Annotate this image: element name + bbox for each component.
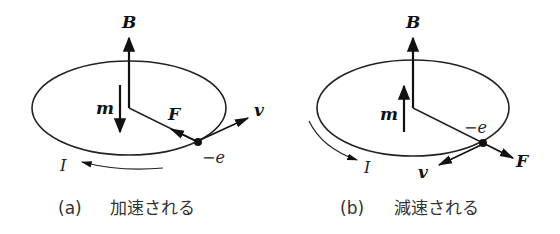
caption-b-label: (b) — [340, 198, 364, 218]
force-label: F — [515, 151, 530, 171]
current-label: I — [59, 156, 67, 175]
velocity-label: v — [418, 162, 429, 182]
b-field-label: B — [405, 12, 420, 32]
velocity-arrow — [200, 118, 248, 140]
force-label: F — [167, 104, 182, 124]
panel-b: B m F v −e I (b) 減速される — [309, 12, 530, 218]
force-arrow — [171, 129, 198, 142]
magnetic-moment-label: m — [96, 98, 114, 118]
current-arrow — [309, 121, 357, 160]
current-label: I — [363, 158, 371, 177]
caption-a-text: 加速される — [110, 198, 195, 218]
magnetic-moment-label: m — [380, 104, 398, 124]
electron-dot — [194, 138, 202, 146]
panel-a: B m F v −e I (a) 加速される — [32, 12, 265, 218]
caption-a-label: (a) — [58, 198, 82, 218]
charge-label: −e — [202, 148, 225, 167]
force-arrow — [483, 143, 513, 158]
velocity-arrow — [439, 145, 481, 165]
velocity-label: v — [254, 100, 265, 120]
figure: B m F v −e I (a) 加速される B m F v −e I (b) … — [0, 0, 560, 234]
b-field-label: B — [121, 12, 136, 32]
caption-b-text: 減速される — [394, 198, 479, 218]
current-arrow — [82, 162, 163, 169]
charge-label: −e — [464, 118, 487, 137]
electron-dot — [479, 139, 487, 147]
